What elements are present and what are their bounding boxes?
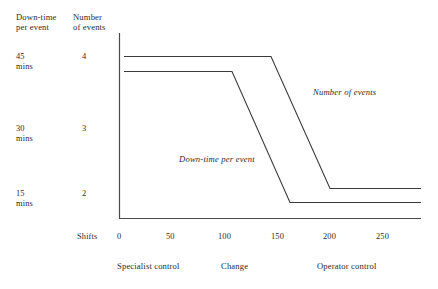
xtick-100: 100 [218,232,231,241]
series-line-number-of-events [124,57,421,189]
phase-label-specialist-control-text: Specialist control [117,261,180,271]
annotation-number-of-events-text: Number of events [313,87,376,97]
annotation-number-of-events: Number of events [313,88,376,98]
xtick-250-label: 250 [376,232,389,241]
xtick-0-label: 0 [117,232,121,241]
x-axis-caption-text: Shifts [77,232,97,241]
phase-label-change: Change [221,262,248,272]
x-axis-caption: Shifts [77,232,97,241]
xtick-100-label: 100 [218,232,231,241]
xtick-50-label: 50 [166,232,175,241]
annotation-downtime-per-event: Down-time per event [179,155,255,165]
phase-label-specialist-control: Specialist control [117,262,180,272]
xtick-50: 50 [166,232,175,241]
plot-area [0,0,438,289]
xtick-150-label: 150 [271,232,284,241]
phase-label-change-text: Change [221,261,248,271]
xtick-250: 250 [376,232,389,241]
xtick-150: 150 [271,232,284,241]
xtick-200: 200 [323,232,336,241]
xtick-0: 0 [117,232,121,241]
phase-label-operator-control: Operator control [317,262,376,272]
chart-figure: Down-time per event Number of events 45 … [0,0,438,289]
annotation-downtime-per-event-text: Down-time per event [179,154,255,164]
xtick-200-label: 200 [323,232,336,241]
series-line-downtime-per-event [124,72,421,203]
phase-label-operator-control-text: Operator control [317,261,376,271]
